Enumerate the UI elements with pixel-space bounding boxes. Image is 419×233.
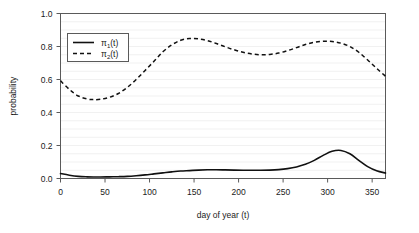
y-axis-title: probability [8,76,18,115]
chart-legend: π1(t) π2(t) [68,34,129,62]
series-line-pi1 [61,150,386,177]
y-axis-ticks: 0.00.20.40.60.81.0 [41,9,61,184]
x-tick-label: 150 [187,187,201,197]
legend-label-pi2: π2(t) [101,49,118,60]
y-tick-label: 0.2 [41,141,53,151]
y-tick-label: 0.6 [41,75,53,85]
chart-canvas: 050100150200250300350 0.00.20.40.60.81.0… [0,0,419,233]
legend-box [68,34,129,62]
y-tick-label: 1.0 [41,9,53,19]
x-tick-label: 300 [321,187,335,197]
chart-figure: 050100150200250300350 0.00.20.40.60.81.0… [0,0,419,233]
x-tick-label: 250 [276,187,290,197]
x-tick-label: 200 [231,187,245,197]
y-tick-label: 0.4 [41,108,53,118]
x-axis-ticks: 050100150200250300350 [58,179,379,197]
x-axis-title: day of year (t) [197,210,250,220]
y-tick-label: 0.8 [41,42,53,52]
x-tick-label: 0 [58,187,63,197]
legend-label-pi1: π1(t) [101,38,118,49]
x-tick-label: 100 [142,187,156,197]
y-tick-label: 0.0 [41,174,53,184]
x-tick-label: 50 [100,187,110,197]
x-tick-label: 350 [365,187,379,197]
